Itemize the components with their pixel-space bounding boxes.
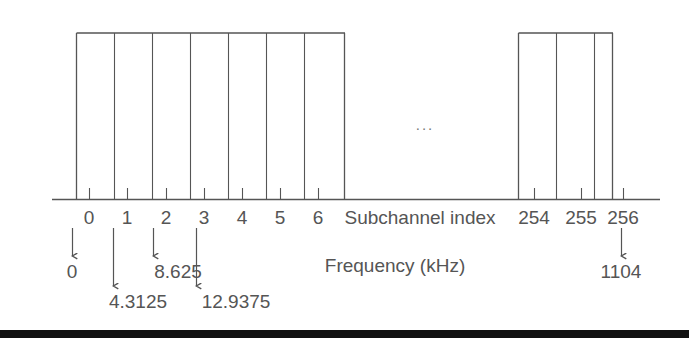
- index-label-255: 255: [565, 208, 597, 227]
- right-subchannel-block: [519, 33, 614, 199]
- frequency-label-4-3125: 4.3125: [109, 292, 167, 311]
- frequency-label-1104: 1104: [601, 262, 642, 281]
- index-label-3: 3: [199, 208, 210, 227]
- index-label-2: 2: [161, 208, 172, 227]
- frequency-label-0: 0: [67, 262, 78, 281]
- frequency-label-8-625: 8.625: [154, 262, 202, 281]
- index-label-256: 256: [607, 208, 639, 227]
- frequency-axis-title: Frequency (kHz): [325, 256, 465, 275]
- bottom-edge-bar: [0, 330, 689, 338]
- frequency-label-12-9375: 12.9375: [202, 292, 271, 311]
- left-subchannel-block: [77, 33, 346, 199]
- diagram-canvas: 0 1 2 3 4 5 6 254 255 256 Subchannel ind…: [0, 0, 689, 338]
- index-label-254: 254: [518, 208, 550, 227]
- index-label-0: 0: [84, 208, 95, 227]
- ellipsis-separator: ...: [416, 117, 435, 132]
- index-tick-marks: [90, 188, 624, 199]
- index-label-6: 6: [313, 208, 324, 227]
- subchannel-index-axis-title: Subchannel index: [344, 208, 495, 227]
- subchannel-diagram-svg: [0, 0, 689, 338]
- index-label-5: 5: [275, 208, 286, 227]
- index-label-4: 4: [237, 208, 248, 227]
- index-label-1: 1: [122, 208, 133, 227]
